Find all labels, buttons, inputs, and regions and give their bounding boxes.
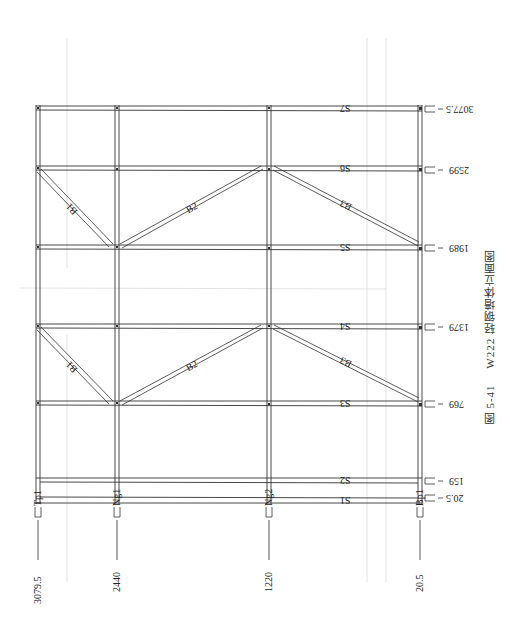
elevation-label-s3: 769 (449, 399, 464, 409)
track-s6 (36, 166, 422, 171)
right-markers (425, 106, 443, 501)
guide-lines (20, 38, 386, 582)
stud-label-tp1: Tp1 (33, 490, 43, 506)
track-label-s3: S3 (340, 398, 351, 408)
connection-points (37, 107, 422, 406)
track-label-s7: S7 (340, 103, 351, 113)
track-s2 (36, 478, 422, 483)
elevation-label-s1: 20.5 (446, 493, 464, 503)
elevation-label-s4: 1379 (449, 322, 469, 332)
track-s7 (36, 106, 422, 111)
caption-number: 图 5-41 (484, 384, 496, 424)
track-s5 (36, 245, 422, 250)
stud-label-bp1: Bp1 (415, 489, 425, 506)
elevation-label-s7: 3077.5 (446, 104, 474, 114)
track-label-s5: S5 (340, 242, 351, 252)
braces (37, 166, 419, 405)
track-label-s4: S4 (340, 321, 351, 331)
bottom-markers (35, 507, 423, 560)
track-s4 (36, 324, 422, 329)
stud-ng2 (267, 105, 271, 504)
caption-title: W222 轻钢墙体立面图 (484, 250, 496, 369)
track-label-s6: S6 (340, 163, 351, 173)
stud-bp1 (418, 105, 422, 504)
elevation-label-s5: 1989 (449, 243, 469, 253)
studs (36, 105, 422, 504)
stud-tp1 (36, 105, 40, 504)
figure-caption: 图 5-41 W222 轻钢墙体立面图 (484, 250, 496, 424)
position-label-bp1: 20.5 (415, 575, 425, 593)
elevation-label-s6: 2599 (449, 165, 469, 175)
stud-ng1 (115, 105, 119, 504)
tracks (36, 106, 422, 503)
position-label-tp1: 3079.5 (33, 577, 43, 605)
position-label-ng2: 1220 (264, 572, 274, 592)
track-label-s2: S2 (340, 475, 351, 485)
wall-elevation-drawing (0, 0, 527, 624)
stud-label-ng2: Ng2 (264, 489, 274, 506)
track-label-s1: S1 (340, 495, 351, 505)
stud-label-ng1: Ng1 (112, 489, 122, 506)
position-label-ng1: 2440 (112, 572, 122, 592)
elevation-label-s2: 159 (449, 476, 464, 486)
track-s3 (36, 401, 422, 406)
track-s1 (36, 497, 422, 503)
